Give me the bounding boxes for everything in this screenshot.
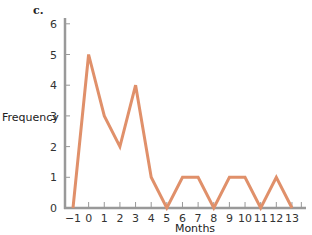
x-tick-label: 5 [163,212,170,225]
y-tick-label: 1 [50,171,57,184]
y-tick-label: 4 [50,79,57,92]
data-series [73,55,292,209]
x-tick-label: 2 [116,212,123,225]
x-tick-label: 3 [132,212,139,225]
x-tick-label: 10 [238,212,252,225]
x-tick-label: 12 [269,212,283,225]
y-tick-label: 0 [50,202,57,215]
x-tick-label: 11 [254,212,268,225]
x-axis-title: Months [175,222,215,235]
x-tick-label: 4 [148,212,155,225]
y-tick-label: 6 [50,18,57,31]
x-tick-label: 9 [226,212,233,225]
panel-label: c. [33,4,44,17]
y-tick-label: 5 [50,49,57,62]
x-tick-label: 13 [285,212,299,225]
x-tick-label: 1 [101,212,108,225]
y-axis-title: Frequency [2,111,59,124]
frequency-line [73,55,292,209]
x-tick-label: −1 [65,212,81,225]
y-tick-label: 2 [50,141,57,154]
x-tick-label: 0 [85,212,92,225]
frequency-line-chart: c. 0123456 −1012345678910111213 Frequenc… [0,0,312,235]
